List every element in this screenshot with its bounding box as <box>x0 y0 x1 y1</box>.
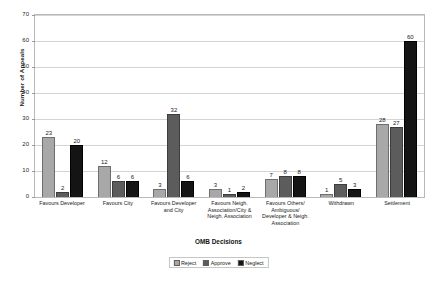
bar-value-label: 2 <box>61 185 64 191</box>
bar[interactable] <box>153 189 166 197</box>
x-category-label: Favours City <box>90 200 146 226</box>
legend-item[interactable]: Approve <box>203 260 231 266</box>
y-tick-mark <box>32 197 35 198</box>
bar[interactable] <box>334 184 347 197</box>
bar-slot: 8 <box>293 15 306 197</box>
bar[interactable] <box>126 181 139 197</box>
bar-groups: 2322012663326312788153282760 <box>35 15 424 197</box>
bar[interactable] <box>181 181 194 197</box>
bar-slot: 1 <box>320 15 333 197</box>
bar-value-label: 6 <box>131 174 134 180</box>
x-category-label: Favours Neigh. Association/City & Neigh.… <box>202 200 258 226</box>
bar-value-label: 2 <box>242 185 245 191</box>
x-axis-title: OMB Decisions <box>0 238 437 245</box>
bar-value-label: 32 <box>171 107 178 113</box>
bar-slot: 28 <box>376 15 389 197</box>
bar[interactable] <box>348 189 361 197</box>
bar-group: 788 <box>257 15 313 197</box>
bar[interactable] <box>320 194 333 197</box>
bar[interactable] <box>279 176 292 197</box>
bar-slot: 20 <box>70 15 83 197</box>
bar-value-label: 28 <box>379 117 386 123</box>
bar-slot: 2 <box>237 15 250 197</box>
x-category-label: Settlement <box>369 200 425 226</box>
bar-value-label: 5 <box>339 177 342 183</box>
bar[interactable] <box>293 176 306 197</box>
bar-slot: 32 <box>167 15 180 197</box>
bar[interactable] <box>265 179 278 197</box>
bar-chart: Number of Appeals 010203040506070 232201… <box>0 0 437 281</box>
bar-value-label: 3 <box>158 182 161 188</box>
plot-area: 010203040506070 232201266332631278815328… <box>34 14 425 198</box>
y-tick-label: 50 <box>5 63 29 69</box>
x-category-label: Favours Developer and City <box>146 200 202 226</box>
bar[interactable] <box>237 192 250 197</box>
bar-slot: 60 <box>404 15 417 197</box>
bar-slot: 3 <box>348 15 361 197</box>
legend-item[interactable]: Neglect <box>238 260 264 266</box>
bar-slot: 6 <box>181 15 194 197</box>
bar-group: 312 <box>202 15 258 197</box>
bar-slot: 3 <box>153 15 166 197</box>
bar-group: 23220 <box>35 15 91 197</box>
bar-value-label: 8 <box>297 169 300 175</box>
bar[interactable] <box>56 192 69 197</box>
bar-slot: 1 <box>223 15 236 197</box>
legend-label: Neglect <box>245 260 263 266</box>
bar-group: 3326 <box>146 15 202 197</box>
bar-slot: 2 <box>56 15 69 197</box>
bar-slot: 6 <box>126 15 139 197</box>
bar-slot: 3 <box>209 15 222 197</box>
legend-label: Approve <box>211 260 231 266</box>
bar[interactable] <box>209 189 222 197</box>
bar[interactable] <box>70 145 83 197</box>
bar-slot: 12 <box>98 15 111 197</box>
legend-swatch-icon <box>238 260 244 266</box>
x-category-label: Withdrawn <box>313 200 369 226</box>
x-axis-category-labels: Favours DeveloperFavours CityFavours Dev… <box>34 200 425 226</box>
bar[interactable] <box>390 127 403 197</box>
bar-slot: 27 <box>390 15 403 197</box>
y-axis-title: Number of Appeals <box>18 33 25 123</box>
bar-value-label: 7 <box>269 172 272 178</box>
y-tick-label: 0 <box>5 193 29 199</box>
bar[interactable] <box>376 124 389 197</box>
bar-value-label: 27 <box>393 120 400 126</box>
bar-slot: 23 <box>42 15 55 197</box>
chart-legend: RejectApproveNeglect <box>168 257 268 268</box>
x-category-label: Favours Others/ Ambiguous/ Developer & N… <box>257 200 313 226</box>
bar-value-label: 60 <box>407 34 414 40</box>
legend-label: Reject <box>181 260 196 266</box>
y-tick-label: 30 <box>5 115 29 121</box>
bar-value-label: 1 <box>228 187 231 193</box>
bar-value-label: 3 <box>214 182 217 188</box>
legend-item[interactable]: Reject <box>173 260 196 266</box>
y-tick-label: 60 <box>5 37 29 43</box>
legend-swatch-icon <box>203 260 209 266</box>
bar-value-label: 8 <box>283 169 286 175</box>
bar-value-label: 23 <box>45 130 52 136</box>
legend-swatch-icon <box>173 260 179 266</box>
bar-value-label: 1 <box>325 187 328 193</box>
bar[interactable] <box>42 137 55 197</box>
bar[interactable] <box>404 41 417 197</box>
y-tick-label: 70 <box>5 11 29 17</box>
bar-value-label: 12 <box>101 159 108 165</box>
bar[interactable] <box>98 166 111 197</box>
bar-slot: 5 <box>334 15 347 197</box>
bar-group: 1266 <box>91 15 147 197</box>
bar-value-label: 6 <box>117 174 120 180</box>
y-tick-label: 40 <box>5 89 29 95</box>
bar-value-label: 20 <box>73 138 80 144</box>
y-tick-label: 20 <box>5 141 29 147</box>
bar[interactable] <box>112 181 125 197</box>
bar-slot: 6 <box>112 15 125 197</box>
bar[interactable] <box>223 194 236 197</box>
bar-value-label: 3 <box>353 182 356 188</box>
x-category-label: Favours Developer <box>34 200 90 226</box>
bar-slot: 7 <box>265 15 278 197</box>
bar-group: 282760 <box>368 15 424 197</box>
bar-group: 153 <box>313 15 369 197</box>
bar[interactable] <box>167 114 180 197</box>
bar-slot: 8 <box>279 15 292 197</box>
